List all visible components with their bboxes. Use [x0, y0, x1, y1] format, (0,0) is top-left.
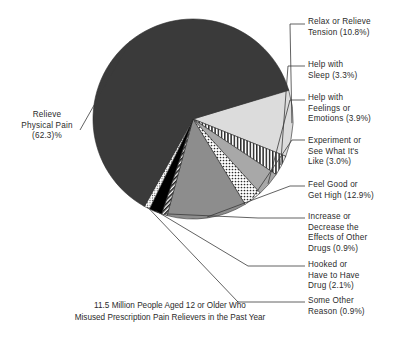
- leader-line-some-other-reason: [147, 207, 305, 302]
- slice-label-feel-good-or-get-high: Feel Good or Get High (12.9%): [308, 180, 400, 201]
- slice-label-help-with-feelings-or-emotions: Help with Feelings or Emotions (3.9%): [308, 93, 400, 125]
- chart-caption: 11.5 Million People Aged 12 or Older Who…: [40, 300, 300, 323]
- slice-label-some-other-reason: Some Other Reason (0.9%): [308, 296, 400, 317]
- slice-label-help-with-sleep: Help with Sleep (3.3%): [308, 60, 400, 81]
- slice-label-relax-or-relieve-tension: Relax or Relieve Tension (10.8%): [308, 17, 400, 38]
- slice-label-experiment-or-see-what-its-like: Experiment or See What It's Like (3.0%): [308, 136, 400, 168]
- slice-label-relieve-physical-pain: Relieve Physical Pain (62.3)%: [4, 110, 90, 142]
- slice-label-increase-or-decrease-effects-of-other-drugs: Increase or Decrease the Effects of Othe…: [308, 212, 400, 254]
- pie-slices: [93, 19, 293, 219]
- slice-label-hooked-or-have-to-have-drug: Hooked or Have to Have Drug (2.1%): [308, 260, 400, 292]
- leader-line-hooked-or-have-to-have-drug: [156, 211, 305, 266]
- pie-chart-figure: Relieve Physical Pain (62.3)% Relax or R…: [0, 0, 400, 339]
